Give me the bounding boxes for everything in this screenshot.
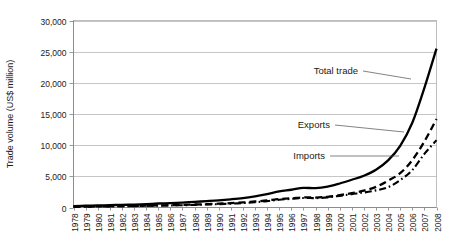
y-axis-tick-label: 10,000	[41, 141, 67, 151]
x-axis-tick-label: 1999	[325, 213, 334, 232]
x-axis-tick-label: 1993	[252, 213, 261, 232]
trade-volume-line-chart: 05,00010,00015,00020,00025,00030,000 197…	[0, 0, 455, 251]
x-axis-tick-label: 1982	[119, 213, 128, 232]
annotation-label-exports: Exports	[298, 119, 330, 130]
y-axis-tick-label: 25,000	[41, 48, 67, 58]
x-axis-tick-label: 1985	[155, 213, 164, 232]
x-axis-tick-label: 1996	[288, 213, 297, 232]
x-axis-tick-label: 1978	[71, 213, 80, 232]
x-axis-tick-label: 1997	[300, 213, 309, 232]
x-axis-tick-label: 1990	[216, 213, 225, 232]
x-axis-tick-label: 1980	[95, 213, 104, 232]
x-axis-tick-label: 1987	[179, 213, 188, 232]
annotation-label-total-trade: Total trade	[314, 65, 358, 76]
x-axis-tick-label: 1984	[143, 213, 152, 232]
x-axis-tick-label: 2004	[385, 213, 394, 232]
x-axis-tick-label: 2000	[337, 213, 346, 232]
x-axis-tick-label: 1992	[240, 213, 249, 232]
y-axis-tick-label: 15,000	[41, 110, 67, 120]
x-axis-tick-label: 2005	[397, 213, 406, 232]
x-axis-tick-label: 1995	[276, 213, 285, 232]
y-axis-tick-label: 5,000	[45, 172, 67, 182]
x-axis-tick-label: 1979	[83, 213, 92, 232]
x-axis-tick-label: 2002	[361, 213, 370, 232]
x-axis-tick-label: 1994	[264, 213, 273, 232]
x-axis-tick-label: 1983	[131, 213, 140, 232]
x-axis-tick-label: 1988	[192, 213, 201, 232]
chart-canvas: 05,00010,00015,00020,00025,00030,000 197…	[0, 0, 455, 251]
x-axis-tick-label: 2006	[409, 213, 418, 232]
x-axis-tick-label: 1991	[228, 213, 237, 232]
x-axis-tick-label: 1986	[167, 213, 176, 232]
x-axis-tick-label: 2001	[349, 213, 358, 232]
x-axis-tick-label: 2003	[373, 213, 382, 232]
y-axis-tick-label: 20,000	[41, 79, 67, 89]
x-axis-tick-label: 2008	[434, 213, 443, 232]
x-axis-tick-label: 1998	[313, 213, 322, 232]
y-axis-title: Trade volume (US$ million)	[5, 60, 15, 169]
annotation-label-imports: Imports	[293, 150, 325, 161]
x-axis-tick-label: 1989	[204, 213, 213, 232]
x-axis-tick-label: 1981	[107, 213, 116, 232]
x-axis-tick-label: 2007	[421, 213, 430, 232]
chart-background	[0, 0, 455, 251]
y-axis-tick-label: 30,000	[41, 17, 67, 27]
y-axis-tick-label: 0	[62, 204, 67, 214]
